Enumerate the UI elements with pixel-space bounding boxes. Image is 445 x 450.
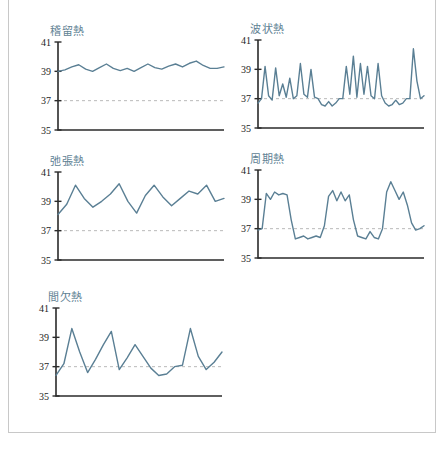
chart-svg: 35373941 xyxy=(228,36,428,142)
chart-svg: 35373941 xyxy=(228,166,428,272)
y-axis-tick-label: 41 xyxy=(39,304,49,314)
chart-panel-shukinetsu: 周期熱 35373941 xyxy=(228,150,433,274)
chart-title: 弛張熱 xyxy=(50,152,85,168)
temperature-series-line xyxy=(258,182,424,239)
y-axis-tick-label: 39 xyxy=(41,66,51,77)
chart-svg: 35373941 xyxy=(28,38,228,144)
chart-plot-area: 35373941 xyxy=(28,38,228,148)
y-axis-tick-label: 37 xyxy=(39,361,49,372)
chart-title: 周期熱 xyxy=(250,150,285,166)
chart-plot-area: 35373941 xyxy=(28,168,228,278)
y-axis-tick-label: 41 xyxy=(241,166,251,176)
chart-axes xyxy=(58,42,224,130)
y-axis-tick-label: 41 xyxy=(41,38,51,48)
temperature-series-line xyxy=(58,184,224,215)
chart-axes xyxy=(58,172,224,260)
temperature-series-line xyxy=(258,49,424,106)
chart-panel-keiryunetsu: 稽留熱 35373941 xyxy=(28,22,228,144)
y-axis-tick-label: 39 xyxy=(39,332,49,343)
y-axis-tick-label: 35 xyxy=(41,125,51,136)
chart-title: 波状熱 xyxy=(250,20,285,36)
y-axis-tick-label: 39 xyxy=(241,64,251,75)
fever-pattern-chart-grid: 稽留熱 35373941 波状熱 35373941 弛張熱 35373941 周… xyxy=(0,0,445,450)
chart-panel-hajonetsu: 波状熱 35373941 xyxy=(228,20,433,144)
chart-svg: 35373941 xyxy=(28,168,228,274)
chart-svg: 35373941 xyxy=(26,304,226,410)
y-axis-tick-label: 37 xyxy=(41,225,51,236)
y-axis-tick-label: 41 xyxy=(41,168,51,178)
chart-title: 稽留熱 xyxy=(50,22,85,38)
y-axis-tick-label: 35 xyxy=(241,253,251,264)
chart-title: 間欠熱 xyxy=(48,288,83,304)
chart-axes xyxy=(258,170,424,258)
y-axis-tick-label: 35 xyxy=(41,255,51,266)
y-axis-tick-label: 35 xyxy=(39,391,49,402)
chart-panel-kanketsunetsu: 間欠熱 35373941 xyxy=(26,288,226,410)
y-axis-tick-label: 37 xyxy=(241,93,251,104)
chart-plot-area: 35373941 xyxy=(228,36,428,146)
chart-plot-area: 35373941 xyxy=(26,304,226,414)
y-axis-tick-label: 39 xyxy=(241,194,251,205)
y-axis-tick-label: 37 xyxy=(241,223,251,234)
y-axis-tick-label: 41 xyxy=(241,36,251,46)
y-axis-tick-label: 35 xyxy=(241,123,251,134)
temperature-series-line xyxy=(56,329,222,376)
temperature-series-line xyxy=(58,61,224,71)
chart-plot-area: 35373941 xyxy=(228,166,428,276)
y-axis-tick-label: 39 xyxy=(41,196,51,207)
chart-panel-shichonetsu: 弛張熱 35373941 xyxy=(28,152,228,274)
y-axis-tick-label: 37 xyxy=(41,95,51,106)
